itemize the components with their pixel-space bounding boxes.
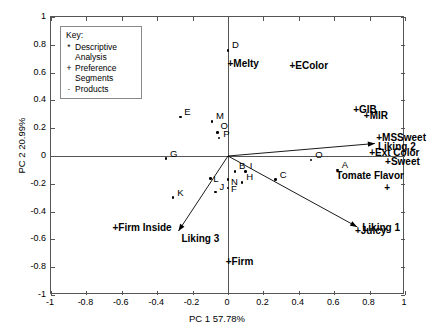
y-tick xyxy=(51,267,55,268)
attribute-label: +Firm Inside xyxy=(112,223,171,233)
x-tick-label: -0.2 xyxy=(177,297,207,307)
y-tick xyxy=(401,212,405,213)
x-tick xyxy=(370,291,371,295)
product-point-label: O xyxy=(315,150,322,160)
legend-title: Key: xyxy=(66,30,137,41)
legend-entry: +Preference xyxy=(66,63,137,74)
legend-symbol-icon: + xyxy=(66,63,72,74)
product-point-marker xyxy=(214,191,217,194)
product-point-label: E xyxy=(184,107,190,117)
product-point-marker xyxy=(274,178,277,181)
y-tick xyxy=(401,17,405,18)
x-tick xyxy=(193,17,194,21)
x-tick-label: 0.2 xyxy=(247,297,277,307)
x-tick-label: 1 xyxy=(389,297,419,307)
y-tick-label: -0.6 xyxy=(20,233,46,243)
legend-label: Descriptive xyxy=(75,42,117,53)
product-point-label: K xyxy=(177,188,183,198)
x-tick xyxy=(299,291,300,295)
x-tick xyxy=(263,17,264,21)
y-tick xyxy=(401,295,405,296)
product-point-marker xyxy=(234,170,237,173)
y-tick xyxy=(51,156,55,157)
y-tick xyxy=(401,239,405,240)
x-tick xyxy=(405,17,406,21)
product-point-marker xyxy=(211,120,214,123)
preference-vector-label: Liking 3 xyxy=(181,234,219,244)
y-tick xyxy=(51,128,55,129)
x-tick xyxy=(122,17,123,21)
product-point-marker xyxy=(216,131,219,134)
product-point-label: P xyxy=(223,129,229,139)
attribute-label: +Firm xyxy=(226,257,254,267)
legend-entries: *DescriptiveAnalysis+PreferenceSegments·… xyxy=(66,42,137,95)
legend-symbol-icon: * xyxy=(66,42,72,53)
y-tick xyxy=(51,17,55,18)
x-tick xyxy=(263,291,264,295)
y-tick xyxy=(51,45,55,46)
y-tick xyxy=(401,73,405,74)
preference-vector-label: Liking 2 xyxy=(378,142,416,152)
y-tick-label: -1 xyxy=(20,289,46,299)
y-tick-label: 0.8 xyxy=(20,39,46,49)
x-tick-label: 0.6 xyxy=(318,297,348,307)
y-tick xyxy=(51,212,55,213)
x-tick-label: 0.4 xyxy=(283,297,313,307)
legend-label-cont: Segments xyxy=(75,73,137,84)
product-point-label: A xyxy=(342,160,348,170)
preference-vector-line xyxy=(228,143,375,156)
x-tick xyxy=(86,291,87,295)
attribute-label: +Melty xyxy=(228,59,259,69)
y-tick xyxy=(51,239,55,240)
legend-label-cont: Analysis xyxy=(75,52,137,63)
attribute-label: +EColor xyxy=(289,61,328,71)
y-tick xyxy=(51,184,55,185)
x-tick xyxy=(370,17,371,21)
product-point-label: G xyxy=(170,149,177,159)
x-tick xyxy=(193,291,194,295)
legend-label: Products xyxy=(75,84,109,95)
preference-vector-arrowhead xyxy=(368,141,375,146)
product-point-marker xyxy=(227,49,230,52)
product-point-label: L xyxy=(213,174,218,184)
attribute-label: Tomate Flavor xyxy=(336,171,404,181)
x-tick xyxy=(157,17,158,21)
product-point-label: H xyxy=(246,172,253,182)
x-tick xyxy=(122,291,123,295)
product-point-label: F xyxy=(231,184,237,194)
preference-vector-label: Liking 1 xyxy=(362,223,400,233)
x-tick xyxy=(228,17,229,21)
product-point-label: C xyxy=(280,170,287,180)
x-tick-label: 0 xyxy=(212,297,242,307)
y-tick-label: 0.6 xyxy=(20,67,46,77)
y-tick xyxy=(401,267,405,268)
legend-symbol-icon: · xyxy=(66,84,72,95)
y-tick xyxy=(401,45,405,46)
product-point-label: J xyxy=(220,182,225,192)
product-point-label: I xyxy=(250,161,253,171)
y-tick-label: 1 xyxy=(20,11,46,21)
y-tick xyxy=(401,184,405,185)
legend-entry: ·Products xyxy=(66,84,137,95)
product-point-marker xyxy=(172,196,175,199)
y-tick xyxy=(51,100,55,101)
x-axis-title: PC 1 57.78% xyxy=(0,313,434,324)
x-tick xyxy=(334,17,335,21)
y-tick xyxy=(51,295,55,296)
legend-key: Key: *DescriptiveAnalysis+PreferenceSegm… xyxy=(60,26,142,99)
product-point-label: D xyxy=(232,40,239,50)
x-tick xyxy=(405,291,406,295)
preference-vector-arrowhead xyxy=(178,224,184,231)
y-tick xyxy=(401,100,405,101)
product-point-marker xyxy=(209,177,212,180)
attribute-label: +Sweet xyxy=(385,157,420,167)
y-tick xyxy=(401,128,405,129)
x-tick-label: -0.6 xyxy=(106,297,136,307)
y-tick-label: -0.4 xyxy=(20,206,46,216)
attribute-marker-icon: + xyxy=(384,183,390,193)
legend-entry: *Descriptive xyxy=(66,42,137,53)
y-tick-label: -0.8 xyxy=(20,261,46,271)
preference-vector-line xyxy=(228,156,357,227)
product-point-marker xyxy=(310,159,313,162)
biplot-figure: DEMOPGOABINHCLFJK+Melty+EColor+GIB+MIR+M… xyxy=(0,0,434,335)
